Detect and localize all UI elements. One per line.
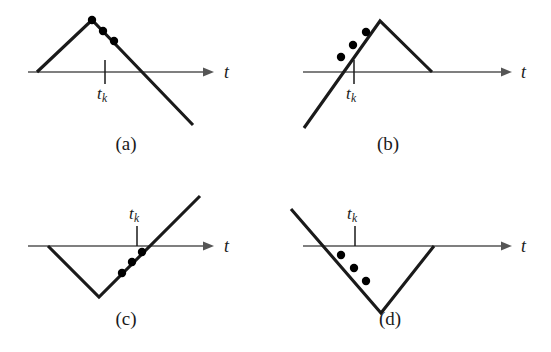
panel-caption-a: (a) [96, 133, 156, 155]
time-axis-arrowhead-a [203, 68, 214, 77]
sample-marker-c-1 [118, 269, 126, 277]
panel-caption-c: (c) [96, 308, 156, 330]
sample-marker-d-1 [337, 251, 345, 259]
sample-marker-c-2 [128, 258, 136, 266]
sample-marker-b-1 [337, 53, 345, 61]
waveform-diagram-canvas [0, 0, 551, 352]
tick-label-subscript-b: k [351, 92, 356, 104]
tick-label-subscript-d: k [352, 212, 357, 224]
panel-b [303, 21, 512, 128]
axis-label-t-c: t [224, 236, 229, 257]
sample-marker-a-1 [88, 16, 96, 24]
time-axis-arrowhead-b [501, 68, 512, 77]
tick-label-subscript-c: k [134, 212, 139, 224]
panel-c [28, 196, 214, 297]
tick-label-tk-c: tk [129, 204, 139, 224]
tick-label-tk-d: tk [347, 204, 357, 224]
sample-marker-d-3 [362, 277, 370, 285]
panel-caption-b: (b) [358, 133, 418, 155]
panel-a [28, 16, 214, 125]
sample-marker-b-3 [362, 28, 370, 36]
tick-label-tk-a: tk [97, 84, 107, 104]
sample-marker-d-2 [350, 264, 358, 272]
axis-label-t-d: t [521, 236, 526, 257]
tick-label-tk-b: tk [346, 84, 356, 104]
sample-marker-a-2 [99, 27, 107, 35]
waveform-d [291, 209, 434, 313]
sample-marker-b-2 [349, 41, 357, 49]
time-axis-arrowhead-d [501, 242, 512, 251]
sample-marker-c-3 [138, 248, 146, 256]
figure-root: (a)ttk(b)ttk(c)ttk(d)ttk [0, 0, 551, 352]
axis-label-t-a: t [224, 62, 229, 83]
panel-d [291, 209, 512, 313]
waveform-b [304, 21, 432, 128]
time-axis-arrowhead-c [203, 242, 214, 251]
panel-caption-d: (d) [360, 308, 420, 330]
sample-marker-a-3 [110, 37, 118, 45]
tick-label-subscript-a: k [102, 92, 107, 104]
axis-label-t-b: t [521, 62, 526, 83]
